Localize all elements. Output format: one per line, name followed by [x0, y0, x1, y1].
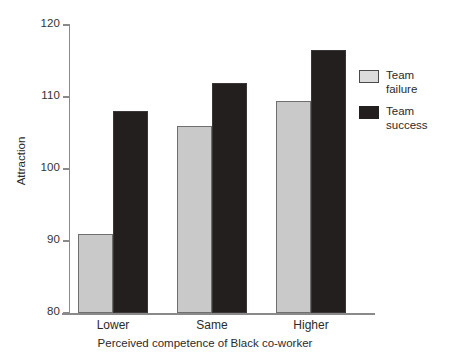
x-axis-label-lower: Lower	[68, 318, 158, 332]
y-axis-tick-labels: 8090100110120	[22, 0, 60, 358]
legend-label-line2: success	[386, 119, 428, 133]
bar-same-team-success	[212, 83, 247, 313]
legend-item-team-success: Teamsuccess	[359, 105, 449, 132]
legend-label-line1: Team	[386, 105, 428, 119]
x-axis-label-higher: Higher	[266, 318, 356, 332]
y-axis-tick	[63, 240, 70, 241]
legend-label: Teamsuccess	[386, 105, 428, 132]
y-axis-tick-label: 80	[26, 305, 60, 317]
legend-label-line2: failure	[386, 83, 417, 97]
y-axis-tick	[63, 312, 70, 313]
legend-label-line1: Team	[386, 69, 417, 83]
plot-area	[70, 25, 346, 313]
y-axis-title: Attraction	[15, 116, 27, 206]
success-swatch-icon	[359, 106, 379, 119]
failure-swatch-icon	[359, 70, 379, 83]
y-axis-tick	[63, 96, 70, 97]
bar-higher-team-success	[311, 50, 346, 313]
chart-legend: TeamfailureTeamsuccess	[359, 69, 449, 141]
x-axis-label-same: Same	[167, 318, 257, 332]
y-axis-tick-label: 100	[26, 161, 60, 173]
bar-lower-team-success	[113, 111, 148, 313]
x-axis-title: Perceived competence of Black co-worker	[0, 337, 410, 349]
bar-same-team-failure	[177, 126, 212, 313]
x-axis-line	[62, 313, 375, 315]
bar-lower-team-failure	[78, 234, 113, 313]
y-axis-tick-label: 90	[26, 233, 60, 245]
legend-item-team-failure: Teamfailure	[359, 69, 449, 96]
bar-chart-figure: 8090100110120 Attraction LowerSameHigher…	[0, 0, 449, 358]
legend-label: Teamfailure	[386, 69, 417, 96]
y-axis-tick-label: 110	[26, 89, 60, 101]
bar-higher-team-failure	[276, 101, 311, 313]
y-axis-tick	[63, 24, 70, 25]
y-axis-tick-label: 120	[26, 17, 60, 29]
y-axis-tick	[63, 168, 70, 169]
